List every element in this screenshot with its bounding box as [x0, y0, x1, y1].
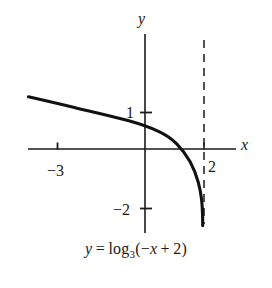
caption-negative-sign: −: [141, 240, 150, 257]
caption-plus-sign: +: [161, 240, 170, 257]
caption-close-paren: ): [181, 240, 187, 257]
math-figure: y x −3 2 1 −2 y = log3(−x + 2): [0, 0, 272, 288]
caption-equals-sign: =: [96, 240, 105, 257]
x-axis-label: x: [240, 136, 248, 153]
x-tick-label-2: 2: [208, 158, 216, 175]
y-axis-label: y: [136, 10, 146, 28]
y-tick-label-neg2: −2: [113, 201, 130, 218]
x-tick-label-neg3: −3: [47, 162, 64, 179]
equation-caption: y = log3(−x + 2): [0, 240, 272, 260]
caption-function-name: log: [108, 240, 129, 257]
y-tick-label-1: 1: [126, 104, 134, 121]
